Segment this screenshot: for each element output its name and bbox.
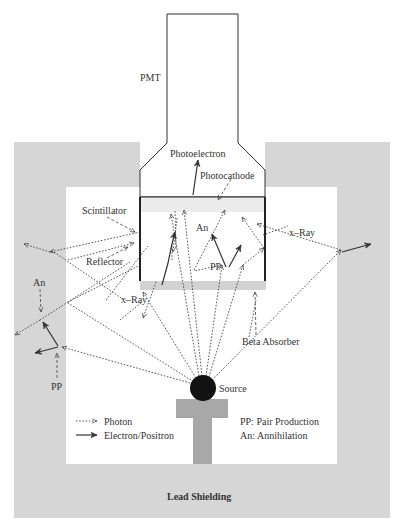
label-pair-production-shield: PP	[51, 381, 63, 392]
label-annihilation-crystal: An	[196, 222, 208, 233]
legend-electron-positron: Electron/Positron	[104, 430, 174, 441]
label-reflector: Reflector	[86, 256, 124, 267]
label-source: Source	[219, 383, 247, 394]
label-xray-right: x–Ray	[289, 227, 315, 238]
legend-pp-definition: PP: Pair Production	[240, 416, 319, 427]
beta-absorber	[140, 281, 266, 290]
scintillator-crystal	[140, 197, 265, 281]
label-photoelectron: Photoelectron	[170, 148, 226, 159]
label-pmt: PMT	[140, 72, 161, 83]
label-lead-shielding: Lead Shielding	[167, 491, 231, 502]
legend-photon: Photon	[104, 416, 132, 427]
label-annihilation-shield: An	[33, 277, 45, 288]
label-xray-left: x–Ray	[121, 294, 147, 305]
label-scintillator: Scintillator	[82, 205, 127, 216]
label-beta-absorber: Beta Absorber	[242, 336, 300, 347]
label-pair-production-crystal: PP	[210, 261, 222, 272]
radioactive-source	[190, 375, 216, 401]
scintillation-detector-diagram: PMT Photoelectron Photocathode Scintilla…	[0, 0, 400, 531]
source-stand	[176, 399, 228, 464]
legend-an-definition: An: Annihilation	[240, 430, 308, 441]
label-photocathode: Photocathode	[200, 170, 255, 181]
